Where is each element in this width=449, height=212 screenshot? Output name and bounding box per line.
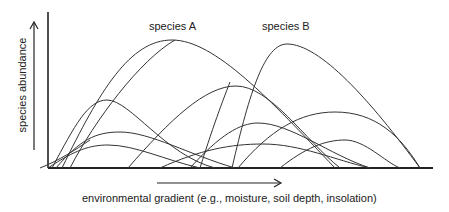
y-arrow-icon [30,22,38,150]
curve-6 [128,86,340,168]
x-arrow-icon [157,179,281,187]
curve-10 [160,144,370,168]
label-species-a: species A [149,20,196,32]
curve-9 [280,140,400,168]
curve-8 [238,112,420,168]
abundance-curves [40,40,420,168]
curve-12 [200,82,230,168]
curve-11 [70,40,175,168]
curve-5 [48,145,200,168]
x-axis-label: environmental gradient (e.g., moisture, … [82,192,377,204]
curve-species-a [62,40,335,168]
y-axis-label: species abundance [16,38,28,133]
label-species-b: species B [262,20,310,32]
niche-diagram [0,0,449,212]
curve-species-b [232,44,420,168]
curve-3 [52,100,215,168]
